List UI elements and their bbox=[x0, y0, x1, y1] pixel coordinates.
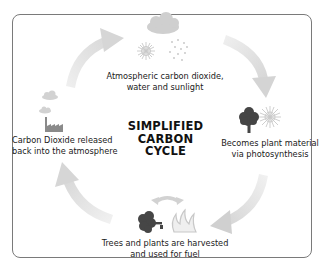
stage-label-release: Carbon Dioxide released back into the at… bbox=[12, 135, 112, 156]
smoke-cloud-icon bbox=[39, 91, 58, 114]
stage-line: back into the atmosphere bbox=[12, 146, 112, 157]
title-line: SIMPLIFIED bbox=[118, 120, 213, 133]
stage-line: via photosynthesis bbox=[220, 149, 320, 160]
stage-line: Atmospheric carbon dioxide, bbox=[105, 71, 225, 82]
stage-line: Trees and plants are harvested bbox=[100, 238, 230, 249]
diagram-title: SIMPLIFIED CARBON CYCLE bbox=[118, 120, 213, 158]
stage-label-photosynthesis: Becomes plant material via photosynthesi… bbox=[220, 138, 320, 159]
stage-line: Carbon Dioxide released bbox=[12, 135, 112, 146]
stage-label-harvest: Trees and plants are harvested and used … bbox=[100, 238, 230, 259]
stage-line: water and sunlight bbox=[105, 82, 225, 93]
stage-line: and used for fuel bbox=[100, 249, 230, 260]
title-line: CYCLE bbox=[118, 145, 213, 158]
stage-line: Becomes plant material bbox=[220, 138, 320, 149]
stage-label-atmosphere: Atmospheric carbon dioxide, water and su… bbox=[105, 71, 225, 92]
factory-icon bbox=[45, 117, 63, 132]
